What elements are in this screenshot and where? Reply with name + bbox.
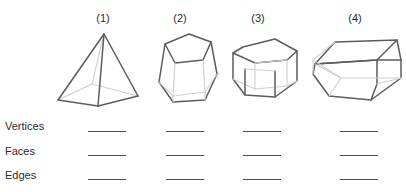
answer-blank-edges-1[interactable] <box>88 179 126 180</box>
column-header-1: (1) <box>83 12 123 24</box>
answer-blank-faces-4[interactable] <box>340 155 378 156</box>
answer-blank-faces-3[interactable] <box>243 155 281 156</box>
row-label-edges: Edges <box>5 169 36 181</box>
column-header-2: (2) <box>160 12 200 24</box>
column-header-3: (3) <box>238 12 278 24</box>
column-header-4: (4) <box>335 12 375 24</box>
figure-pentagonal-prism-upright <box>155 30 223 108</box>
answer-blank-edges-2[interactable] <box>166 179 204 180</box>
answer-blank-vertices-4[interactable] <box>340 131 378 132</box>
answer-blank-edges-3[interactable] <box>243 179 281 180</box>
row-label-faces: Faces <box>5 145 35 157</box>
row-label-vertices: Vertices <box>5 120 44 132</box>
figure-hexagonal-prism <box>231 33 301 107</box>
figure-square-pyramid <box>52 28 144 110</box>
answer-blank-vertices-3[interactable] <box>243 131 281 132</box>
worksheet-canvas: (1) (2) (3) (4) <box>0 0 406 192</box>
answer-blank-vertices-2[interactable] <box>166 131 204 132</box>
answer-blank-faces-2[interactable] <box>166 155 204 156</box>
answer-blank-vertices-1[interactable] <box>88 131 126 132</box>
figure-pentagonal-prism-horizontal <box>309 34 405 108</box>
answer-blank-edges-4[interactable] <box>340 179 378 180</box>
answer-blank-faces-1[interactable] <box>88 155 126 156</box>
